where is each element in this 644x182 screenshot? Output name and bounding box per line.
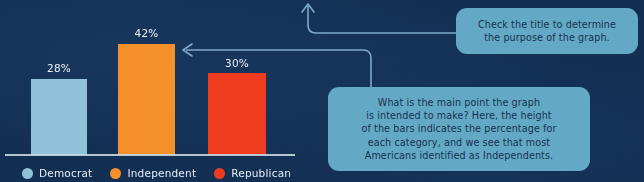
bar-republican[interactable]: [208, 73, 266, 155]
legend-label-independent: Independent: [127, 167, 196, 179]
legend-swatch-icon: [110, 168, 121, 179]
callout-main-line-4: each category, and we see that most: [361, 136, 556, 149]
legend-item-independent[interactable]: Independent: [110, 167, 196, 179]
infographic-canvas: 28% 42% 30% Democrat Independent Republi…: [0, 0, 644, 182]
legend-label-republican: Republican: [231, 167, 291, 179]
bar-value-label-0: 28%: [31, 62, 87, 74]
callout-main-line-2: is intended to make? Here, the height: [361, 109, 556, 122]
arrow-to-title: [308, 6, 456, 33]
callout-main-line-5: Americans identified as Independents.: [361, 149, 556, 162]
bar-value-label-1: 42%: [118, 27, 175, 39]
callout-main-point[interactable]: What is the main point the graph is inte…: [328, 87, 590, 171]
legend-item-democrat[interactable]: Democrat: [22, 167, 92, 179]
x-axis-line: [5, 154, 295, 156]
legend-item-republican[interactable]: Republican: [214, 167, 291, 179]
legend-swatch-icon: [22, 168, 33, 179]
bar-independent[interactable]: [118, 44, 175, 155]
callout-title-line-2: the purpose of the graph.: [478, 31, 616, 44]
chart-legend: Democrat Independent Republican: [22, 167, 291, 179]
legend-label-democrat: Democrat: [39, 167, 92, 179]
callout-main-line-1: What is the main point the graph: [361, 96, 556, 109]
bar-democrat[interactable]: [31, 79, 87, 155]
callout-title-text: Check the title to determine the purpose…: [478, 18, 616, 44]
legend-swatch-icon: [214, 168, 225, 179]
callout-title-line-1: Check the title to determine: [478, 18, 616, 31]
bar-chart: 28% 42% 30% Democrat Independent Republi…: [0, 0, 310, 182]
callout-main-line-3: of the bars indicates the percentage for: [361, 122, 556, 135]
callout-check-title[interactable]: Check the title to determine the purpose…: [456, 8, 638, 54]
callout-main-text: What is the main point the graph is inte…: [361, 96, 556, 162]
bar-value-label-2: 30%: [208, 57, 266, 69]
